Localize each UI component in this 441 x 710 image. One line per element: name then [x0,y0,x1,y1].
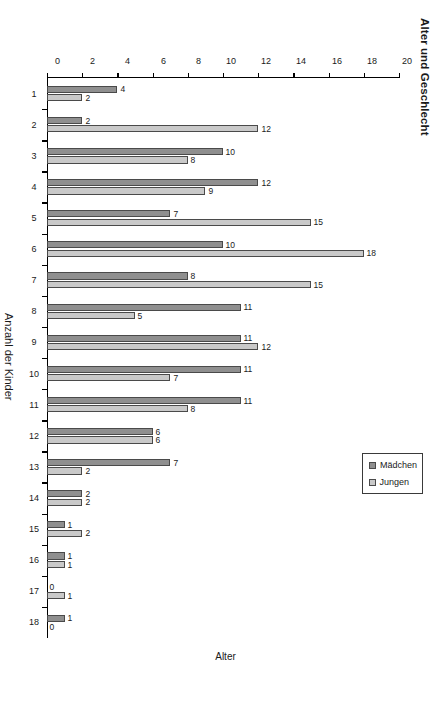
bar-value-label: 0 [50,622,55,631]
category-tick-label-16: 16 [22,555,46,565]
bar-jungen-age-9 [47,343,258,350]
bar-value-label: 12 [261,124,270,133]
bar-value-label: 1 [68,560,73,569]
bar-value-label: 18 [367,249,376,258]
value-tick-label-14: 14 [284,56,306,66]
bar-value-label: 2 [85,467,90,476]
category-tick [42,327,47,328]
bar-value-label: 12 [261,342,270,351]
category-tick-label-3: 3 [22,151,46,161]
bar-jungen-age-8 [47,312,135,319]
category-tick-label-4: 4 [22,182,46,192]
category-tick-label-15: 15 [22,524,46,534]
value-tick-label-4: 4 [108,56,130,66]
bar-jungen-age-4 [47,187,205,194]
bar-madchen-age-1 [47,86,117,93]
bar-value-label: 4 [120,85,125,94]
bar-madchen-age-3 [47,148,223,155]
category-tick-label-13: 13 [22,462,46,472]
bar-value-label: 5 [138,311,143,320]
category-tick [42,420,47,421]
value-tick [399,73,400,78]
category-tick-label-11: 11 [22,400,46,410]
bar-jungen-age-5 [47,219,311,226]
bar-madchen-age-6 [47,241,223,248]
bar-value-label: 11 [244,334,253,343]
category-tick-label-14: 14 [22,493,46,503]
bar-value-label: 1 [68,521,73,530]
category-tick [42,607,47,608]
category-tick [42,296,47,297]
category-tick-label-9: 9 [22,337,46,347]
bar-jungen-age-7 [47,281,311,288]
legend-label: Mädchen [380,460,417,470]
bar-jungen-age-1 [47,94,82,101]
bar-madchen-age-16 [47,552,65,559]
bar-value-label: 6 [156,436,161,445]
bar-value-label: 1 [68,552,73,561]
category-tick [42,140,47,141]
value-tick-label-16: 16 [320,56,342,66]
value-tick-label-18: 18 [355,56,377,66]
bar-madchen-age-13 [47,459,170,466]
category-tick [42,234,47,235]
bar-value-label: 11 [244,396,253,405]
bar-value-label: 10 [226,241,235,250]
category-tick [42,389,47,390]
bar-jungen-age-6 [47,250,364,257]
value-tick-label-20: 20 [390,56,412,66]
bar-value-label: 11 [244,303,253,312]
bar-value-label: 8 [191,272,196,281]
bar-jungen-age-12 [47,436,153,443]
category-tick [42,109,47,110]
bar-value-label: 2 [85,498,90,507]
bar-value-label: 12 [261,178,270,187]
category-tick-label-10: 10 [22,369,46,379]
category-tick [42,358,47,359]
legend-swatch-icon [369,479,376,486]
bar-madchen-age-11 [47,397,241,404]
bar-jungen-age-2 [47,125,258,132]
bar-value-label: 15 [314,280,323,289]
bar-value-label: 7 [173,373,178,382]
bar-value-label: 10 [226,147,235,156]
bar-madchen-age-18 [47,615,65,622]
bar-value-label: 11 [244,365,253,374]
legend-swatch-icon [369,462,376,469]
category-tick [42,202,47,203]
bar-madchen-age-7 [47,272,188,279]
legend-item-jungen[interactable]: Jungen [369,477,417,487]
value-tick-label-0: 0 [38,56,60,66]
bar-madchen-age-12 [47,428,153,435]
category-tick-label-18: 18 [22,617,46,627]
bar-value-label: 2 [85,116,90,125]
bar-jungen-age-10 [47,374,170,381]
bar-value-label: 1 [68,614,73,623]
bar-value-label: 8 [191,404,196,413]
bar-value-label: 7 [173,209,178,218]
bar-jungen-age-3 [47,156,188,163]
category-tick-label-12: 12 [22,431,46,441]
bar-jungen-age-16 [47,561,65,568]
category-tick-label-17: 17 [22,586,46,596]
bar-value-label: 2 [85,93,90,102]
value-tick-label-8: 8 [179,56,201,66]
bar-jungen-age-15 [47,530,82,537]
category-tick [42,514,47,515]
bar-madchen-age-2 [47,117,82,124]
value-tick-label-6: 6 [144,56,166,66]
value-tick-label-2: 2 [73,56,95,66]
bar-value-label: 7 [173,458,178,467]
category-tick [42,265,47,266]
bar-madchen-age-15 [47,521,65,528]
bar-jungen-age-14 [47,499,82,506]
bar-madchen-age-10 [47,366,241,373]
bar-value-label: 8 [191,156,196,165]
chart-figure: Alter und Geschlecht 2412281091215718101… [0,0,441,710]
category-axis-title: Alter [215,651,236,662]
legend-item-madchen[interactable]: Mädchen [369,460,417,470]
bar-value-label: 0 [50,583,55,592]
bar-value-label: 6 [156,427,161,436]
category-tick [42,451,47,452]
category-tick [42,576,47,577]
